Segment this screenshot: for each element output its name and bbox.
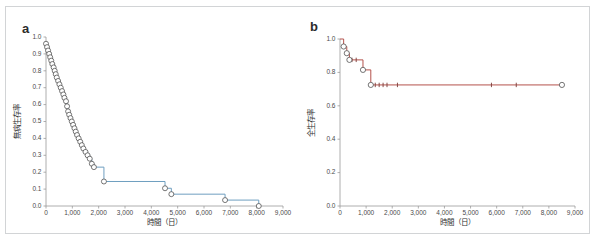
y-tick-label: 0.2: [326, 168, 335, 175]
x-tick-label: 5,000: [462, 209, 479, 216]
y-tick-label: 0.3: [32, 151, 41, 158]
data-point-marker: [223, 198, 228, 203]
y-tick-label: 0.4: [32, 134, 41, 141]
y-tick-label: 1.0: [326, 35, 335, 42]
x-tick-label: 7,000: [515, 209, 532, 216]
x-tick-label: 9,000: [275, 209, 292, 216]
y-tick-label: 0.8: [32, 67, 41, 74]
data-point-marker: [163, 186, 168, 191]
x-tick-label: 3,000: [410, 209, 427, 216]
axis-frame: [340, 39, 575, 206]
y-tick-label: 0.0: [326, 202, 335, 209]
x-tick-label: 5,000: [170, 209, 187, 216]
x-tick-label: 3,000: [117, 209, 134, 216]
x-tick-label: 4,000: [143, 209, 160, 216]
x-tick-label: 1,000: [358, 209, 375, 216]
x-tick-label: 0: [338, 209, 342, 216]
y-tick-label: 0.6: [326, 102, 335, 109]
data-point-marker: [368, 82, 373, 87]
x-tick-label: 8,000: [541, 209, 558, 216]
x-tick-label: 6,000: [489, 209, 506, 216]
y-axis-title: 全生存率: [306, 108, 316, 137]
data-point-marker: [347, 57, 352, 62]
data-point-marker: [360, 67, 365, 72]
x-axis-title: 時間（日）: [440, 218, 475, 227]
figure-card: a 0.00.10.20.30.40.50.60.70.80.91.001,00…: [5, 6, 590, 234]
data-point-marker: [341, 44, 346, 49]
data-point-marker: [101, 179, 106, 184]
y-tick-label: 0.6: [32, 100, 41, 107]
y-tick-label: 0.4: [326, 135, 335, 142]
x-tick-label: 7,000: [222, 209, 239, 216]
panel-b: b 0.00.20.40.60.81.001,0002,0003,0004,00…: [298, 7, 591, 235]
x-tick-label: 4,000: [436, 209, 453, 216]
panel-b-plot: 0.00.20.40.60.81.001,0002,0003,0004,0005…: [298, 7, 591, 235]
y-tick-label: 0.7: [32, 83, 41, 90]
y-tick-label: 0.0: [32, 202, 41, 209]
data-point-marker: [344, 51, 349, 56]
data-point-marker: [91, 165, 96, 170]
axis-frame: [46, 37, 283, 206]
x-tick-label: 2,000: [384, 209, 401, 216]
data-point-marker: [559, 82, 564, 87]
x-tick-label: 8,000: [249, 209, 266, 216]
x-tick-label: 6,000: [196, 209, 213, 216]
data-point-marker: [169, 192, 174, 197]
y-axis-title: 無病生存率: [12, 103, 22, 139]
x-tick-label: 0: [44, 209, 48, 216]
data-point-marker: [87, 156, 92, 161]
x-tick-label: 9,000: [567, 209, 584, 216]
y-tick-label: 1.0: [32, 33, 41, 40]
survival-step-curve: [46, 44, 259, 206]
y-tick-label: 0.5: [32, 117, 41, 124]
y-tick-label: 0.9: [32, 50, 41, 57]
x-tick-label: 1,000: [64, 209, 81, 216]
data-point-marker: [65, 104, 70, 109]
y-tick-label: 0.1: [32, 185, 41, 192]
panel-a: a 0.00.10.20.30.40.50.60.70.80.91.001,00…: [6, 7, 303, 235]
x-tick-label: 2,000: [91, 209, 108, 216]
data-point-marker: [256, 204, 261, 209]
y-tick-label: 0.2: [32, 168, 41, 175]
x-axis-title: 時間（日）: [147, 218, 182, 227]
survival-step-curve: [340, 39, 562, 85]
data-point-marker: [64, 99, 69, 104]
y-tick-label: 0.8: [326, 68, 335, 75]
panel-a-plot: 0.00.10.20.30.40.50.60.70.80.91.001,0002…: [6, 7, 303, 235]
